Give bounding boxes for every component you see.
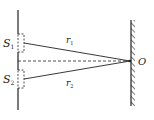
point-o (129, 60, 132, 63)
slit-s2 (18, 70, 24, 88)
ray-r1 (24, 43, 130, 61)
double-slit-diagram: S1 S2 r1 r2 O (0, 0, 154, 120)
label-r1: r1 (66, 35, 74, 46)
screen-wall (131, 20, 135, 106)
slit-s1 (18, 34, 24, 52)
label-s2: S2 (3, 73, 15, 86)
diagram-canvas: S1 S2 r1 r2 O (0, 0, 154, 120)
ray-r2 (24, 61, 130, 79)
label-o: O (138, 56, 146, 67)
label-s1: S1 (3, 37, 14, 50)
label-r2: r2 (66, 78, 74, 89)
